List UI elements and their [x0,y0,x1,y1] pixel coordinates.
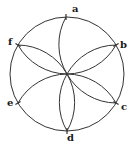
rosette-figure [0,0,137,147]
arc-to-b [67,45,116,74]
arc-to-f [18,45,67,74]
arc-to-b [67,45,116,74]
point-label-f: f [8,37,12,47]
point-label-a: a [72,4,78,14]
point-label-b: b [120,40,127,50]
arc-to-a [59,17,67,74]
point-label-d: d [67,133,74,143]
point-label-c: c [121,102,127,112]
petal-arcs [18,17,116,131]
arc-to-f [18,45,67,74]
point-label-e: e [7,98,13,108]
arc-to-d [59,74,67,131]
